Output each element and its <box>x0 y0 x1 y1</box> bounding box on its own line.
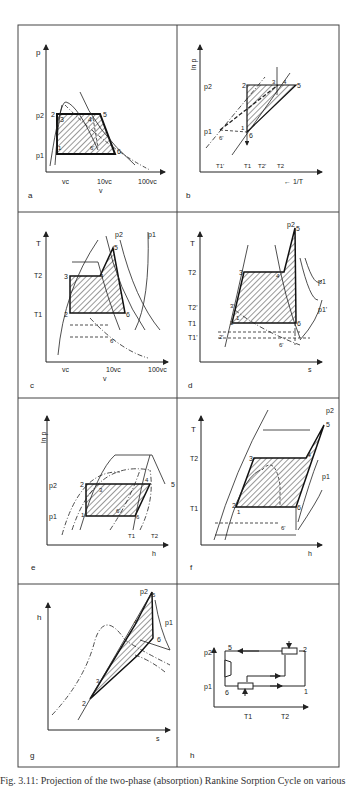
x-tick-T2: T2 <box>281 713 289 720</box>
y-tick-p2: p2 <box>204 83 212 91</box>
curve-p2: p2 <box>115 231 123 239</box>
point-5: 5 <box>171 481 175 488</box>
point-5: 5 <box>228 644 232 651</box>
curve-p2: p2 <box>326 407 334 415</box>
y-tick-p2: p2 <box>204 649 212 657</box>
point-6-prime: 6' <box>116 508 120 514</box>
y-tick-T2: T2 <box>34 272 42 279</box>
y-tick-p1: p1 <box>204 683 212 691</box>
x-tick-T2: T2 <box>277 163 285 169</box>
point-2: 2 <box>51 111 55 118</box>
point-5: 5 <box>103 111 107 118</box>
panel-e-lnp-h-diagram: ln p p2 p1 h T1 T2 1 2 3 4 5 6 6' e <box>31 416 175 572</box>
panel-c-Tv-diagram: T T2 T1 vc 10vc 100vc v p2 p1 2 3 4 5 6 … <box>30 231 168 390</box>
point-6-prime: 6' <box>90 145 94 151</box>
point-6: 6 <box>117 148 121 155</box>
point-2: 2 <box>64 311 68 318</box>
y-axis-label: ln p <box>40 432 48 443</box>
point-6: 6 <box>297 320 301 327</box>
y-tick-T1-prime: T1' <box>188 334 198 341</box>
point-4: 4 <box>88 116 92 123</box>
rankine-sorption-figure: p p2 p1 vc 10vc 100vc v 2 3 4 5 6 6' 1 a… <box>0 0 359 789</box>
panel-b-lnp-invT-diagram: ln p p2 p1 T1' T1 T2' T2 ← 1/T 2 3 4 5 6… <box>186 45 322 200</box>
point-5: 5 <box>114 244 118 251</box>
point-6: 6 <box>249 132 253 139</box>
point-4: 4 <box>145 477 149 483</box>
panel-label: b <box>186 191 191 200</box>
y-tick-T2: T2 <box>188 269 196 276</box>
point-2: 2 <box>82 700 86 707</box>
x-axis-label: v <box>99 187 103 194</box>
y-tick-p2: p2 <box>36 112 44 120</box>
point-3-prime: 3' <box>230 303 234 309</box>
curve-T1: T1 <box>128 533 136 539</box>
point-6: 6 <box>157 636 161 643</box>
x-tick-T1: T1 <box>244 713 252 720</box>
x-tick-T2-prime: T2' <box>258 163 266 169</box>
point-6: 6 <box>126 311 130 318</box>
x-tick-vc: vc <box>62 178 70 185</box>
panel-label: d <box>188 381 192 390</box>
y-tick-p1: p1 <box>49 513 57 521</box>
panel-d-Ts-diagram: T T2 T2' T1 T1' s p2 p1 p1' 1 2 2' 3 3' … <box>188 221 327 390</box>
point-2: 2 <box>303 646 307 653</box>
y-tick-p1: p1 <box>36 152 44 160</box>
y-tick-T1: T1 <box>188 320 196 327</box>
x-axis-label: v <box>103 375 107 382</box>
curve-p1: p1 <box>322 473 330 481</box>
point-6-prime: 6' <box>281 525 285 531</box>
point-1: 1 <box>237 509 241 515</box>
point-3: 3 <box>239 269 243 276</box>
y-tick-p1: p1 <box>204 128 212 136</box>
point-2: 2 <box>242 82 246 89</box>
point-6-prime: 6' <box>279 342 283 348</box>
point-1: 1 <box>304 688 308 695</box>
panel-h-cycle-schematic: p2 p1 T1 T2 1 2 5 6 h <box>190 641 308 760</box>
point-5: 5 <box>296 225 300 232</box>
panel-label: e <box>31 563 36 572</box>
y-axis-label: p <box>36 48 41 57</box>
point-6-prime: 6' <box>219 135 223 141</box>
curve-p1: p1 <box>318 278 326 286</box>
point-3: 3 <box>64 273 68 280</box>
curve-p1: p1 <box>165 619 173 627</box>
panel-label: c <box>30 381 34 390</box>
point-2-prime: 2' <box>219 334 223 340</box>
curve-p1: p1 <box>148 231 156 239</box>
x-tick-10vc: 10vc <box>106 366 121 373</box>
x-tick-T1: T1 <box>244 163 252 169</box>
point-3: 3 <box>272 79 276 85</box>
x-axis-label: h <box>308 550 312 557</box>
point-5: 5 <box>326 421 330 428</box>
y-axis-label: ln p <box>190 59 198 70</box>
point-6: 6 <box>225 689 229 696</box>
y-tick-p2: p2 <box>49 482 57 490</box>
point-6: 6 <box>297 504 301 511</box>
x-tick-10vc: 10vc <box>97 178 112 185</box>
point-3: 3 <box>249 455 253 462</box>
point-2: 2 <box>232 502 236 509</box>
y-tick-T1: T1 <box>34 311 42 318</box>
point-2: 2 <box>80 481 84 488</box>
y-axis-label: T <box>36 239 41 248</box>
curve-p1-prime: p1' <box>318 306 327 314</box>
curve-p2: p2 <box>140 588 148 596</box>
point-1: 1 <box>241 125 245 131</box>
panel-a-pv-diagram: p p2 p1 vc 10vc 100vc v 2 3 4 5 6 6' 1 a <box>28 45 165 200</box>
y-tick-T1: T1 <box>190 505 198 512</box>
panel-label: a <box>28 191 33 200</box>
panel-label: f <box>190 563 193 572</box>
point-4: 4 <box>283 79 287 85</box>
y-axis-label: T <box>190 239 195 248</box>
x-axis-label: s <box>156 735 160 742</box>
y-tick-T2-prime: T2' <box>188 304 198 311</box>
x-tick-T1-prime: T1' <box>216 163 224 169</box>
figure-caption: Fig. 3.11: Projection of the two-phase (… <box>0 775 359 786</box>
point-4: 4 <box>307 451 311 458</box>
y-axis-label: h <box>37 613 41 622</box>
point-5: 5 <box>152 592 156 598</box>
panel-f-Th-diagram: T T2 T1 h p2 p1 1 2 3 4 5 6 6' f <box>190 407 334 572</box>
x-tick-100vc: 100vc <box>138 178 157 185</box>
panel-label: h <box>190 751 194 760</box>
point-5: 5 <box>297 82 301 89</box>
